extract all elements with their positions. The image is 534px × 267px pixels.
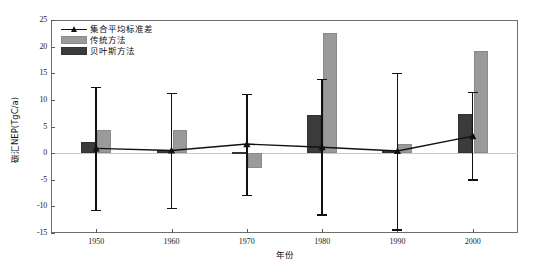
legend-item-ensemble-std: 集合平均标准差 bbox=[61, 24, 153, 34]
gray-swatch-icon bbox=[61, 36, 87, 44]
legend-label-traditional: 传统方法 bbox=[90, 36, 126, 45]
chart-figure: 2520151050-5-10-15 195019601970198019902… bbox=[0, 0, 534, 267]
y-axis-title: 碳汇NEP(TgC/a) bbox=[11, 96, 20, 162]
x-axis-title: 年份 bbox=[31, 251, 534, 260]
ensemble-mean-marker bbox=[469, 132, 476, 139]
line-marker-icon bbox=[61, 25, 87, 33]
ensemble-mean-polyline bbox=[96, 136, 473, 151]
legend-item-traditional: 传统方法 bbox=[61, 35, 153, 45]
dark-swatch-icon bbox=[61, 47, 87, 55]
legend-label-bayesian: 贝叶斯方法 bbox=[90, 47, 135, 56]
chart-legend: 集合平均标准差 传统方法 贝叶斯方法 bbox=[61, 24, 153, 56]
legend-item-bayesian: 贝叶斯方法 bbox=[61, 46, 153, 56]
legend-label-ensemble-std: 集合平均标准差 bbox=[90, 25, 153, 34]
